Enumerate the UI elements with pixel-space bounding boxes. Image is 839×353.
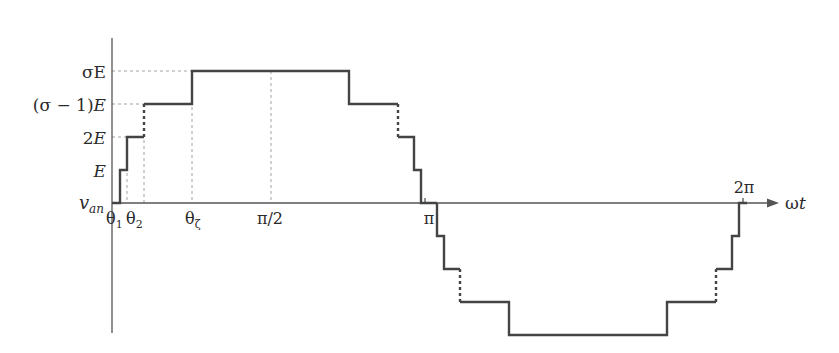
label-2pi: 2π [734,178,755,197]
label-theta1: θ1 [106,209,123,231]
label-sigma-minus-1-E: (σ − 1)E [33,95,107,115]
label-sigmaE: σE [82,62,106,82]
wave-rise-lower [112,137,144,203]
waveform-negative-half [437,203,747,335]
axes [112,38,779,333]
wave-neg-fall-upper [437,203,460,269]
x-tick-labels: θ1 θ2 θζ π/2 π 2π ωt [106,178,806,231]
label-v-an: van [79,192,104,216]
label-pi: π [424,209,435,228]
label-omega-t: ωt [785,193,806,213]
label-theta-zeta: θζ [185,209,201,231]
staircase-waveform-diagram: σE (σ − 1)E 2E E van θ1 θ2 θζ π/2 π 2π ω… [0,0,839,353]
label-half-pi: π/2 [257,209,283,228]
x-axis-arrow-icon [767,199,779,208]
label-E: E [93,161,107,181]
label-2E: 2E [83,128,107,148]
wave-bottom [460,302,716,335]
wave-fall-lower [398,137,437,203]
label-theta2: θ2 [126,209,143,231]
angle-guides [127,71,271,203]
waveform-positive-half [112,71,437,203]
wave-top [144,71,398,104]
y-level-labels: σE (σ − 1)E 2E E van [33,62,107,216]
wave-neg-rise-upper [716,203,747,269]
